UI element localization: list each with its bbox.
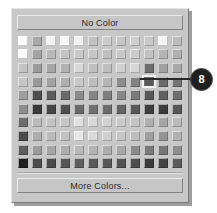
color-swatch[interactable]: [156, 88, 170, 102]
color-swatch[interactable]: [86, 102, 100, 116]
color-swatch[interactable]: [128, 34, 142, 48]
color-swatch[interactable]: [44, 75, 58, 89]
color-swatch[interactable]: [128, 156, 142, 170]
color-swatch[interactable]: [128, 88, 142, 102]
color-swatch[interactable]: [156, 116, 170, 130]
color-swatch[interactable]: [30, 143, 44, 157]
color-swatch[interactable]: [114, 156, 128, 170]
color-swatch[interactable]: [100, 48, 114, 62]
color-swatch[interactable]: [58, 34, 72, 48]
color-swatch[interactable]: [30, 102, 44, 116]
color-swatch[interactable]: [142, 143, 156, 157]
color-swatch[interactable]: [156, 129, 170, 143]
color-swatch[interactable]: [170, 34, 184, 48]
color-swatch[interactable]: [86, 34, 100, 48]
color-swatch[interactable]: [170, 48, 184, 62]
color-swatch[interactable]: [114, 34, 128, 48]
color-swatch[interactable]: [72, 156, 86, 170]
color-swatch[interactable]: [100, 61, 114, 75]
color-swatch[interactable]: [128, 75, 142, 89]
color-swatch[interactable]: [30, 34, 44, 48]
color-swatch[interactable]: [58, 143, 72, 157]
color-swatch[interactable]: [142, 61, 156, 75]
color-swatch[interactable]: [16, 143, 30, 157]
color-swatch[interactable]: [128, 143, 142, 157]
color-swatch[interactable]: [86, 143, 100, 157]
color-swatch[interactable]: [44, 129, 58, 143]
color-swatch[interactable]: [58, 129, 72, 143]
color-swatch[interactable]: [142, 102, 156, 116]
color-swatch[interactable]: [44, 116, 58, 130]
color-swatch[interactable]: [16, 102, 30, 116]
color-swatch[interactable]: [86, 75, 100, 89]
color-swatch[interactable]: [128, 61, 142, 75]
color-swatch[interactable]: [114, 129, 128, 143]
color-swatch[interactable]: [58, 75, 72, 89]
color-swatch[interactable]: [58, 102, 72, 116]
color-swatch[interactable]: [16, 88, 30, 102]
color-swatch[interactable]: [30, 156, 44, 170]
color-swatch[interactable]: [100, 34, 114, 48]
color-swatch[interactable]: [30, 129, 44, 143]
color-swatch[interactable]: [30, 75, 44, 89]
color-swatch[interactable]: [44, 34, 58, 48]
color-swatch[interactable]: [16, 116, 30, 130]
color-swatch[interactable]: [170, 143, 184, 157]
color-swatch[interactable]: [58, 61, 72, 75]
color-swatch[interactable]: [16, 48, 30, 62]
color-swatch[interactable]: [114, 102, 128, 116]
color-swatch[interactable]: [114, 143, 128, 157]
color-swatch[interactable]: [100, 75, 114, 89]
color-swatch[interactable]: [114, 61, 128, 75]
color-swatch[interactable]: [86, 88, 100, 102]
color-swatch[interactable]: [72, 75, 86, 89]
color-swatch[interactable]: [128, 48, 142, 62]
color-swatch[interactable]: [16, 129, 30, 143]
color-swatch[interactable]: [72, 61, 86, 75]
color-swatch[interactable]: [170, 88, 184, 102]
color-swatch[interactable]: [72, 143, 86, 157]
color-swatch[interactable]: [86, 48, 100, 62]
color-swatch[interactable]: [44, 102, 58, 116]
color-swatch[interactable]: [100, 156, 114, 170]
color-swatch[interactable]: [100, 143, 114, 157]
color-swatch[interactable]: [142, 129, 156, 143]
color-swatch[interactable]: [72, 34, 86, 48]
color-swatch[interactable]: [72, 116, 86, 130]
color-swatch[interactable]: [170, 75, 184, 89]
color-swatch[interactable]: [142, 156, 156, 170]
color-swatch[interactable]: [16, 75, 30, 89]
color-swatch[interactable]: [72, 102, 86, 116]
color-swatch[interactable]: [100, 88, 114, 102]
color-swatch[interactable]: [128, 102, 142, 116]
no-color-button[interactable]: No Color: [17, 15, 183, 30]
color-swatch[interactable]: [142, 88, 156, 102]
color-swatch[interactable]: [16, 156, 30, 170]
color-swatch[interactable]: [86, 129, 100, 143]
color-swatch[interactable]: [142, 48, 156, 62]
color-swatch[interactable]: [72, 88, 86, 102]
color-swatch[interactable]: [30, 48, 44, 62]
color-swatch[interactable]: [30, 88, 44, 102]
color-swatch[interactable]: [44, 88, 58, 102]
color-swatch[interactable]: [58, 48, 72, 62]
color-swatch[interactable]: [100, 116, 114, 130]
color-swatch[interactable]: [86, 116, 100, 130]
color-swatch[interactable]: [86, 156, 100, 170]
color-swatch-grid[interactable]: [16, 34, 184, 170]
color-swatch[interactable]: [72, 48, 86, 62]
color-swatch[interactable]: [16, 61, 30, 75]
color-swatch[interactable]: [114, 48, 128, 62]
color-swatch[interactable]: [72, 129, 86, 143]
color-swatch[interactable]: [58, 116, 72, 130]
color-swatch[interactable]: [128, 129, 142, 143]
color-swatch[interactable]: [44, 48, 58, 62]
color-swatch[interactable]: [114, 75, 128, 89]
color-swatch[interactable]: [44, 156, 58, 170]
color-swatch[interactable]: [142, 34, 156, 48]
color-swatch[interactable]: [156, 34, 170, 48]
color-swatch[interactable]: [156, 48, 170, 62]
color-swatch[interactable]: [156, 102, 170, 116]
color-swatch[interactable]: [30, 116, 44, 130]
color-swatch[interactable]: [170, 61, 184, 75]
